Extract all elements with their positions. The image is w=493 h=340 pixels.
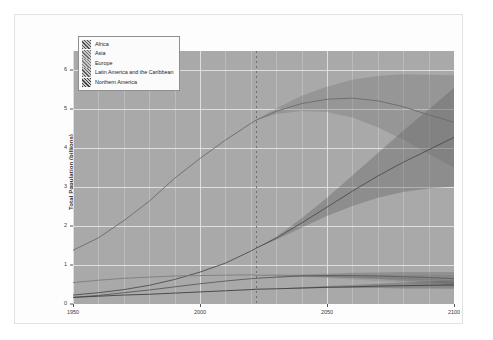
y-axis-tick-label: 0 bbox=[64, 301, 67, 307]
population-projection-chart: Total Population (billions) 0123456 1950… bbox=[45, 31, 463, 313]
legend-item[interactable]: Latin America and the Caribbean bbox=[82, 68, 174, 77]
document-page-frame: Total Population (billions) 0123456 1950… bbox=[14, 14, 463, 324]
legend-item[interactable]: Africa bbox=[82, 40, 174, 49]
legend-color-swatch bbox=[82, 50, 91, 59]
legend-item[interactable]: Asia bbox=[82, 49, 174, 58]
y-axis-tick-label: 4 bbox=[64, 146, 67, 152]
y-axis-tick-label: 3 bbox=[64, 184, 67, 190]
legend-item-label: Latin America and the Caribbean bbox=[95, 70, 174, 75]
x-axis-tick-label: 1950 bbox=[67, 310, 79, 316]
legend: AfricaAsiaEuropeLatin America and the Ca… bbox=[78, 36, 180, 91]
x-axis-tick-mark bbox=[200, 304, 201, 307]
legend-item-label: Europe bbox=[95, 61, 112, 66]
legend-item[interactable]: Northern America bbox=[82, 78, 174, 87]
legend-item-label: Asia bbox=[95, 51, 106, 56]
legend-color-swatch bbox=[82, 78, 91, 87]
x-axis-tick-label: 2100 bbox=[448, 310, 460, 316]
legend-color-swatch bbox=[82, 40, 91, 49]
x-axis-tick-label: 2050 bbox=[321, 310, 333, 316]
y-axis-tick-label: 6 bbox=[64, 68, 67, 74]
legend-color-swatch bbox=[82, 68, 91, 77]
legend-item[interactable]: Europe bbox=[82, 59, 174, 68]
y-axis-tick-label: 1 bbox=[64, 262, 67, 268]
y-axis-tick-label: 5 bbox=[64, 107, 67, 113]
legend-item-label: Africa bbox=[95, 42, 109, 47]
y-axis-tick-label: 2 bbox=[64, 223, 67, 229]
x-axis-tick-mark bbox=[454, 304, 455, 307]
x-axis-tick-label: 2000 bbox=[194, 310, 206, 316]
legend-color-swatch bbox=[82, 59, 91, 68]
legend-item-label: Northern America bbox=[95, 80, 137, 85]
x-axis-tick-mark bbox=[73, 304, 74, 307]
x-axis-tick-mark bbox=[327, 304, 328, 307]
